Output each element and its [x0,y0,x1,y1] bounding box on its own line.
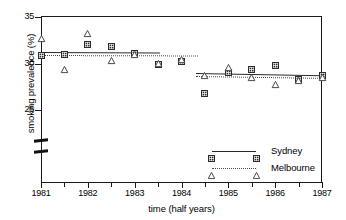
data-point [178,56,185,63]
data-point [131,51,138,58]
x-tick-1981.5 [64,182,65,187]
y-tick-25 [35,110,41,111]
data-point [201,90,208,97]
data-point [84,30,91,37]
legend-marker-square [208,148,215,155]
legend-line-melbourne [212,168,256,169]
legend-label-sydney: Sydney [271,145,302,157]
data-point [38,52,45,59]
data-point [108,57,115,64]
legend-line-sydney [212,151,256,152]
x-tick-1982.5 [111,182,112,187]
data-point [61,51,68,58]
legend-marker-triangle [208,165,215,172]
data-point [108,43,115,50]
x-tick-1986.5 [299,182,300,187]
legend-sample-melbourne [205,160,263,177]
legend-sample-sydney [205,143,263,160]
legend-item-sydney: Sydney [205,143,317,160]
x-tick-1985.5 [252,182,253,187]
x-tick-1984.5 [205,182,206,187]
x-tick-label-1983: 1983 [115,188,155,198]
legend-item-melbourne: Melbourne [205,160,317,177]
data-point [272,62,279,69]
y-tick-35 [35,17,41,18]
data-point [155,60,162,67]
data-point [248,66,255,73]
x-axis-title: time (half years) [41,203,322,214]
data-point [319,74,326,81]
legend-marker-square [253,148,260,155]
y-axis-title: smoking prevalence (%) [25,4,36,164]
x-tick-label-1984: 1984 [162,188,202,198]
data-point [295,77,302,84]
y-tick-30 [35,64,41,65]
x-tick-label-1986: 1986 [255,188,295,198]
data-point [84,41,91,48]
chart-legend: SydneyMelbourne [205,143,317,177]
data-point [272,81,279,88]
data-point [201,72,208,79]
legend-label-melbourne: Melbourne [271,162,315,174]
x-tick-label-1982: 1982 [68,188,108,198]
legend-marker-triangle [253,165,260,172]
x-tick-1983.5 [158,182,159,187]
data-point [248,74,255,81]
data-point [38,35,45,42]
data-point [225,64,232,71]
x-tick-label-1985: 1985 [208,188,248,198]
data-point [61,66,68,73]
x-tick-label-1987: 1987 [302,188,342,198]
x-tick-label-1981: 1981 [21,188,61,198]
chart-figure: 253035 1981198219831984198519861987 smok… [0,0,346,220]
